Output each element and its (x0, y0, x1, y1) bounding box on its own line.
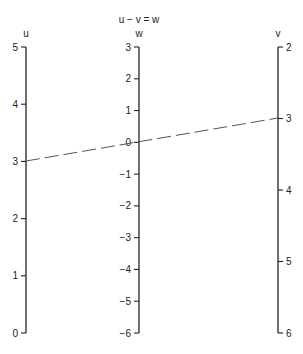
u-tick-label: 0 (12, 328, 18, 339)
u-tick-label: 5 (12, 42, 18, 53)
w-tick-label: −2 (120, 200, 132, 211)
u-tick-label: 2 (12, 213, 18, 224)
u-axis-label: u (23, 28, 29, 39)
v-scale: v 23456 (276, 28, 293, 339)
v-tick-label: 4 (286, 185, 292, 196)
w-tick-label: −6 (120, 328, 132, 339)
u-tick-label: 4 (12, 99, 18, 110)
w-tick-label: −3 (120, 232, 132, 243)
w-tick-label: −4 (120, 264, 132, 275)
w-tick-label: 3 (125, 42, 131, 53)
u-scale: u 543210 (12, 28, 28, 339)
equation-title: u − v = w (119, 14, 160, 25)
v-tick-label: 5 (286, 256, 292, 267)
v-axis-label: v (276, 28, 281, 39)
w-tick-label: −5 (120, 296, 132, 307)
w-tick-label: 2 (125, 73, 131, 84)
u-tick-label: 1 (12, 270, 18, 281)
isopleth-dashed-line (26, 118, 278, 161)
nomogram: u − v = w u 543210 w 3210−1−2−3−4−5−6 v … (0, 0, 303, 354)
u-tick-label: 3 (12, 156, 18, 167)
w-tick-label: 0 (125, 137, 131, 148)
w-scale: w 3210−1−2−3−4−5−6 (120, 28, 144, 339)
w-tick-label: 1 (125, 105, 131, 116)
v-tick-label: 6 (286, 328, 292, 339)
w-tick-label: −1 (120, 169, 132, 180)
v-tick-label: 3 (286, 113, 292, 124)
v-tick-label: 2 (286, 42, 292, 53)
w-axis-label: w (134, 28, 143, 39)
